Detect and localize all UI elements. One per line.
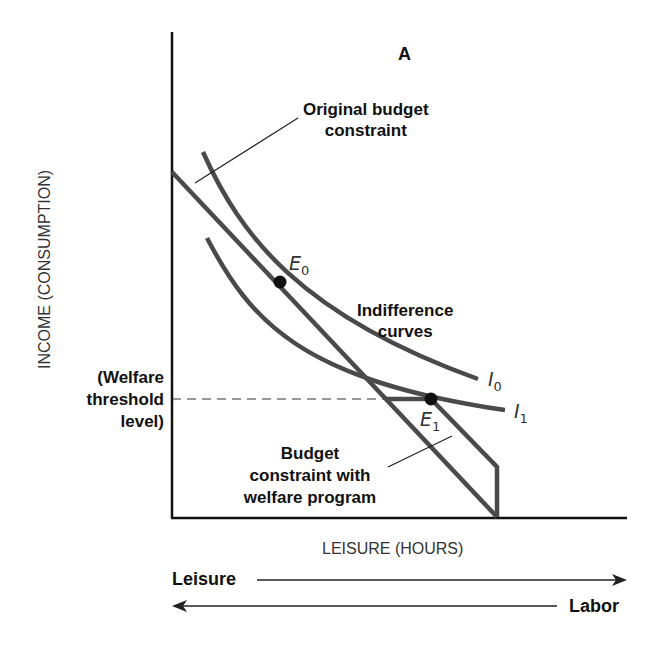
indifference-curve-i0 — [203, 152, 478, 379]
welfare-budget-pointer — [388, 436, 452, 467]
leisure-arrow-label: Leisure — [172, 569, 236, 590]
x-axis-label: LEISURE (HOURS) — [322, 540, 463, 558]
equilibrium-e1-dot — [425, 393, 438, 406]
welfare-budget-label: Budget constraint with welfare program — [230, 443, 390, 509]
i0-label: I0 — [488, 368, 502, 394]
indifference-curves-label: Indifference curves — [357, 300, 453, 342]
original-budget-label: Original budget constraint — [303, 99, 429, 141]
e0-label: E0 — [289, 252, 309, 278]
labor-arrow-label: Labor — [569, 596, 619, 617]
e1-label: E1 — [420, 408, 440, 434]
panel-label: A — [398, 44, 411, 65]
labor-leisure-diagram: A Original budget constraint Indifferenc… — [0, 0, 670, 645]
i1-label: I1 — [514, 400, 528, 426]
equilibrium-e0-dot — [274, 276, 287, 289]
welfare-threshold-label: (Welfare threshold level) — [66, 367, 164, 433]
original-budget-pointer — [195, 118, 298, 183]
y-axis-label: INCOME (CONSUMPTION) — [36, 179, 54, 369]
